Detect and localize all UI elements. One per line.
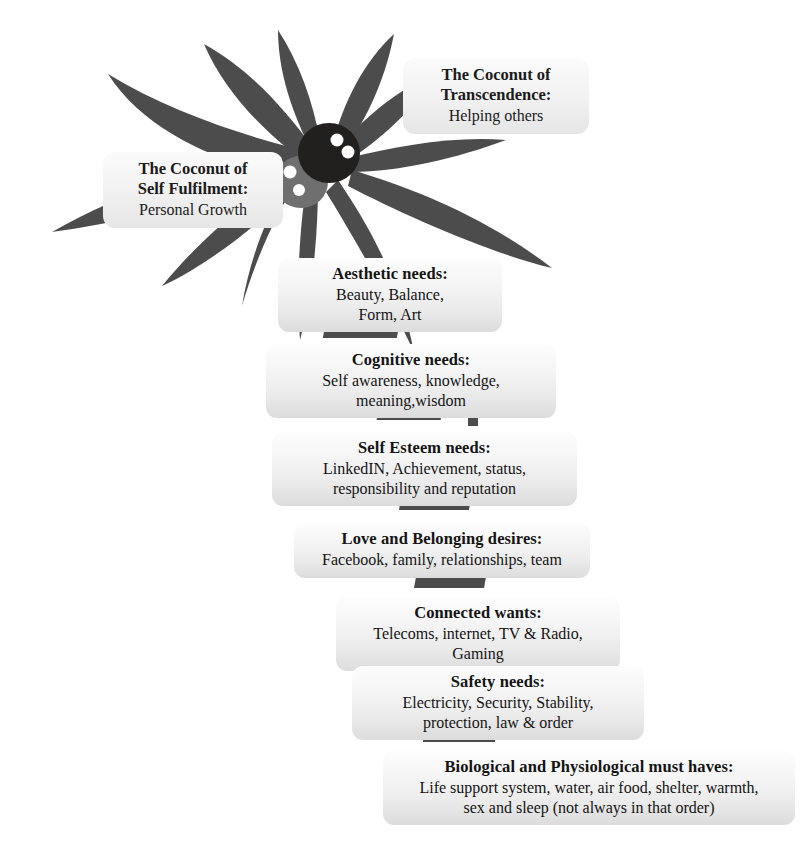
- need-biological-title: Biological and Physiological must haves:: [397, 757, 781, 777]
- need-level-aesthetic[interactable]: Aesthetic needs: Beauty, Balance, Form, …: [278, 258, 502, 332]
- frond-upper-diagonal-left: [204, 44, 312, 158]
- need-level-self-esteem[interactable]: Self Esteem needs: LinkedIN, Achievement…: [272, 432, 577, 506]
- trunk-segment-4: [414, 577, 486, 588]
- need-biological-body: Life support system, water, air food, sh…: [397, 778, 781, 817]
- coconut-dark-sphere: [298, 123, 360, 183]
- coconut-transcendence-body: Helping others: [416, 106, 576, 125]
- need-cognitive-body: Self awareness, knowledge, meaning,wisdo…: [280, 371, 542, 410]
- coconut-dark-eye-1: [331, 134, 344, 147]
- coconut-callout-self-fulfilment[interactable]: The Coconut of Self Fulfilment: Personal…: [103, 152, 283, 228]
- need-love-belonging-body: Facebook, family, relationships, team: [308, 550, 576, 570]
- need-level-cognitive[interactable]: Cognitive needs: Self awareness, knowled…: [266, 344, 556, 418]
- coconut-transcendence-title: The Coconut of Transcendence:: [416, 65, 576, 105]
- diagram-canvas: The Coconut of Transcendence: Helping ot…: [0, 0, 807, 860]
- frond-right-horizontal: [348, 139, 506, 172]
- need-connected-body: Telecoms, internet, TV & Radio, Gaming: [350, 624, 606, 663]
- need-cognitive-title: Cognitive needs:: [280, 350, 542, 370]
- need-aesthetic-title: Aesthetic needs:: [292, 264, 488, 284]
- coconut-self-fulfilment-body: Personal Growth: [116, 200, 270, 219]
- coconut-mid-eye-1: [284, 166, 297, 179]
- need-safety-title: Safety needs:: [366, 672, 630, 692]
- frond-lower-right-long: [348, 170, 552, 268]
- need-self-esteem-body: LinkedIN, Achievement, status, responsib…: [286, 459, 563, 498]
- need-level-connected[interactable]: Connected wants: Telecoms, internet, TV …: [336, 597, 620, 671]
- need-level-biological[interactable]: Biological and Physiological must haves:…: [383, 751, 795, 825]
- need-safety-body: Electricity, Security, Stability, protec…: [366, 693, 630, 732]
- frond-upper-vertical: [278, 30, 320, 152]
- frond-upper-right-a: [334, 34, 394, 150]
- need-aesthetic-body: Beauty, Balance, Form, Art: [292, 285, 488, 324]
- coconut-self-fulfilment-title: The Coconut of Self Fulfilment:: [116, 159, 270, 199]
- need-level-safety[interactable]: Safety needs: Electricity, Security, Sta…: [352, 666, 644, 740]
- need-level-love-belonging[interactable]: Love and Belonging desires: Facebook, fa…: [294, 523, 590, 578]
- coconut-dark-eye-2: [342, 146, 355, 159]
- coconut-mid-eye-2: [293, 184, 305, 196]
- need-connected-title: Connected wants:: [350, 603, 606, 623]
- need-love-belonging-title: Love and Belonging desires:: [308, 529, 576, 549]
- need-self-esteem-title: Self Esteem needs:: [286, 438, 563, 458]
- coconut-callout-transcendence[interactable]: The Coconut of Transcendence: Helping ot…: [403, 58, 589, 134]
